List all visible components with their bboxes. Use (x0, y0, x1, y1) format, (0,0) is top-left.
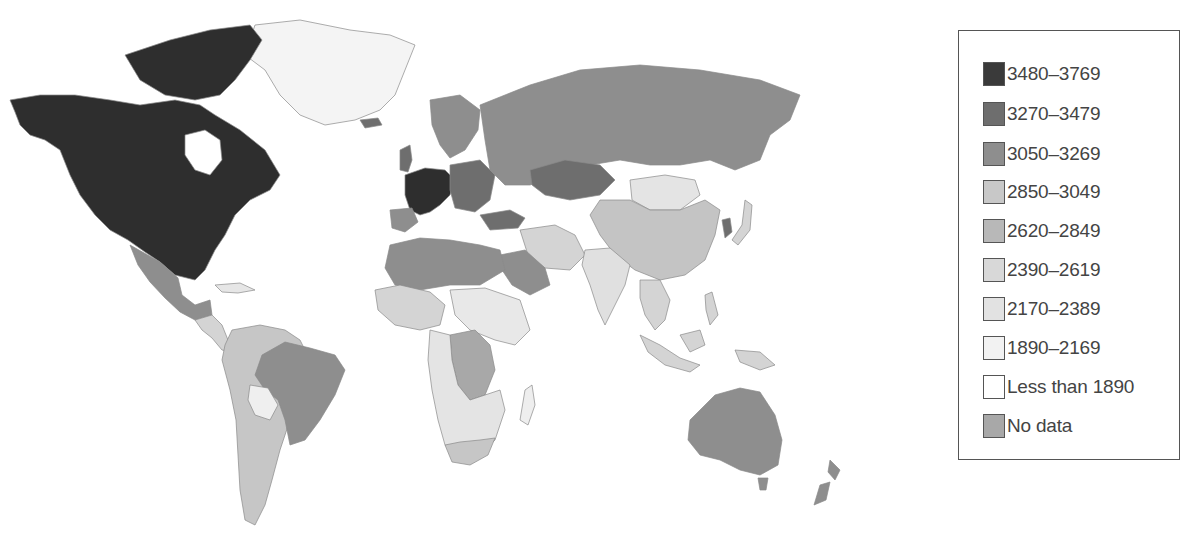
legend-swatch (983, 414, 1005, 438)
legend-item: 1890–2169 (983, 335, 1100, 361)
region-turkey (480, 210, 525, 230)
region-caribbean (215, 283, 255, 293)
legend-label: 2850–3049 (1007, 181, 1100, 203)
legend-label: 2390–2619 (1007, 259, 1100, 281)
region-greenland (245, 20, 415, 125)
region-madagascar (520, 385, 535, 425)
world-map (0, 0, 950, 534)
legend-label: Less than 1890 (1007, 376, 1134, 398)
region-uk (400, 145, 412, 172)
legend-swatch (983, 180, 1005, 204)
region-kazakhstan (530, 160, 615, 200)
legend-label: 2620–2849 (1007, 220, 1100, 242)
region-southeast-asia (640, 280, 670, 330)
legend-item: 3050–3269 (983, 141, 1100, 167)
legend-swatch (983, 258, 1005, 282)
map-legend: 3480–3769 3270–3479 3050–3269 2850–3049 … (958, 30, 1180, 460)
legend-item: 3270–3479 (983, 101, 1100, 127)
region-indonesia (640, 330, 775, 372)
region-new-zealand (814, 460, 840, 505)
legend-swatch (983, 336, 1005, 360)
region-north-america (10, 95, 280, 280)
legend-swatch (983, 375, 1005, 399)
region-scandinavia (430, 95, 480, 158)
legend-item: 2170–2389 (983, 296, 1100, 322)
legend-item: 2620–2849 (983, 218, 1100, 244)
region-iberia (390, 208, 418, 232)
legend-swatch (983, 297, 1005, 321)
legend-label: 1890–2169 (1007, 337, 1100, 359)
legend-label: 3050–3269 (1007, 143, 1100, 165)
region-tasmania (758, 478, 768, 490)
region-japan (732, 200, 752, 245)
legend-label: 2170–2389 (1007, 298, 1100, 320)
legend-label: 3480–3769 (1007, 63, 1100, 85)
region-philippines (705, 292, 718, 325)
region-australia (688, 388, 782, 475)
region-india (582, 248, 630, 325)
region-korea (722, 218, 732, 238)
legend-item: 3480–3769 (983, 61, 1100, 87)
legend-item: 2390–2619 (983, 257, 1100, 283)
region-western-europe (405, 168, 455, 215)
legend-item: 2850–3049 (983, 179, 1100, 205)
legend-swatch (983, 142, 1005, 166)
legend-label: 3270–3479 (1007, 103, 1100, 125)
legend-swatch (983, 219, 1005, 243)
region-arctic-islands (125, 25, 262, 100)
region-mongolia (630, 175, 700, 210)
legend-swatch (983, 62, 1005, 86)
region-iceland (360, 118, 382, 128)
legend-label: No data (1007, 415, 1072, 437)
region-north-africa (385, 238, 505, 290)
legend-item: Less than 1890 (983, 374, 1134, 400)
legend-item: No data (983, 413, 1072, 439)
region-russia (480, 65, 800, 185)
legend-swatch (983, 102, 1005, 126)
region-west-africa (375, 285, 445, 330)
region-eastern-europe (450, 160, 495, 212)
